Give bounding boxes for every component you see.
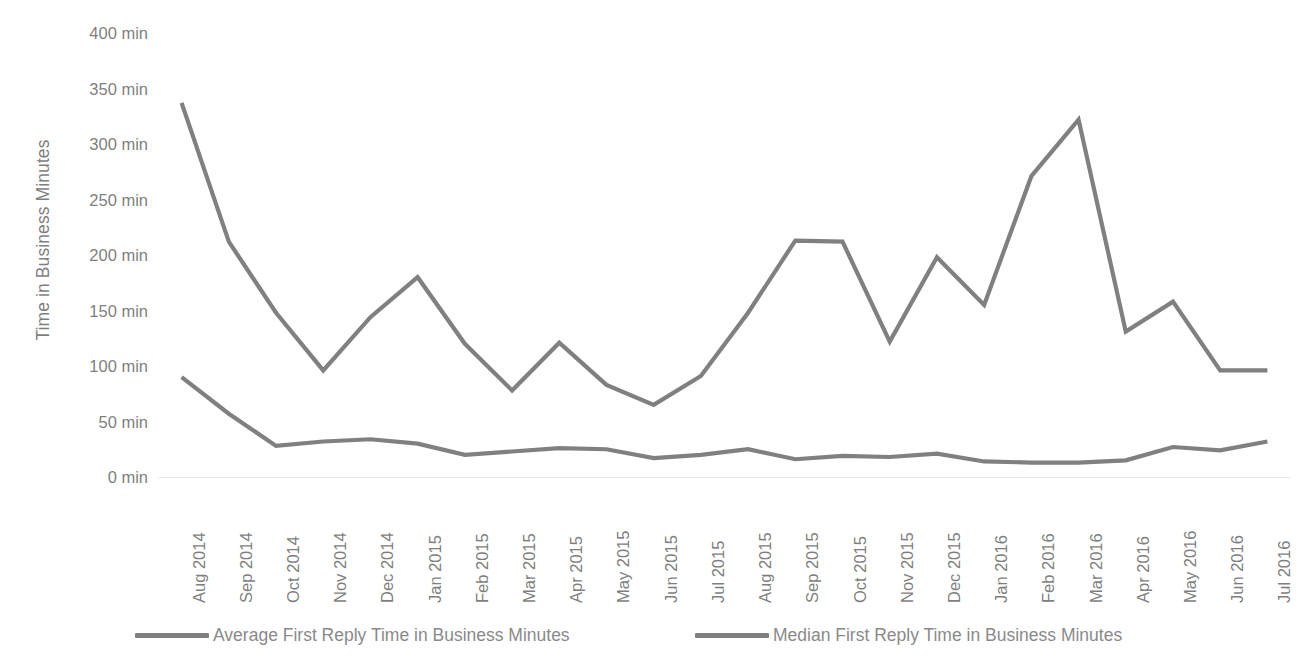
legend-item[interactable]: Median First Reply Time in Business Minu…	[695, 618, 1122, 652]
y-axis-tick-label: 150 min	[70, 301, 148, 320]
legend-item-label: Median First Reply Time in Business Minu…	[773, 625, 1122, 646]
chart-legend: Average First Reply Time in Business Min…	[0, 618, 1309, 652]
series-line-average	[182, 103, 1268, 405]
y-axis-tick-label: 350 min	[70, 79, 148, 98]
y-axis-tick-label: 250 min	[70, 190, 148, 209]
series-lines	[158, 33, 1291, 477]
legend-line-swatch-icon	[135, 633, 209, 638]
series-line-median	[182, 377, 1268, 462]
y-axis-tick-label: 0 min	[70, 468, 148, 487]
y-axis-title: Time in Business Minutes	[28, 0, 58, 480]
plot-area	[158, 33, 1291, 477]
y-axis-tick-label: 400 min	[70, 24, 148, 43]
legend-line-swatch-icon	[695, 633, 769, 638]
y-axis-tick-label: 300 min	[70, 135, 148, 154]
line-chart: Time in Business Minutes 400 min350 min3…	[0, 0, 1309, 666]
legend-item-label: Average First Reply Time in Business Min…	[213, 625, 570, 646]
x-axis-tick-label: Jul 2016	[1275, 483, 1309, 502]
y-axis-tick-label: 50 min	[70, 412, 148, 431]
y-axis-tick-label: 200 min	[70, 246, 148, 265]
x-axis-tick-labels: Aug 2014Sep 2014Oct 2014Nov 2014Dec 2014…	[158, 477, 1291, 607]
y-axis-tick-label: 100 min	[70, 357, 148, 376]
y-axis-tick-labels: 400 min350 min300 min250 min200 min150 m…	[70, 0, 148, 500]
legend-item[interactable]: Average First Reply Time in Business Min…	[135, 618, 570, 652]
